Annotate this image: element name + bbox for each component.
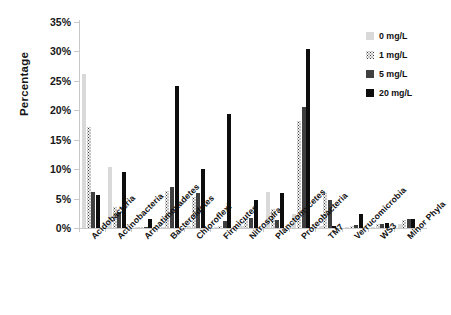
legend-item[interactable]: 1 mg/L: [366, 45, 448, 64]
y-axis-tick: [74, 140, 79, 141]
bar-group: [108, 22, 126, 228]
legend-label-5mgl: 5 mg/L: [379, 69, 407, 79]
bar[interactable]: [376, 224, 380, 228]
y-axis-tick: [74, 22, 79, 23]
legend-item[interactable]: 0 mg/L: [366, 26, 448, 45]
bar-chart: Percentage 0%5%10%15%20%25%30%35% Acidob…: [0, 0, 451, 315]
bar-group: [214, 22, 232, 228]
y-axis-tick-label: 30%: [31, 46, 71, 56]
legend: 0 mg/L 1 mg/L 5 mg/L 20 mg/L: [366, 26, 448, 102]
legend-label-1mgl: 1 mg/L: [379, 50, 407, 60]
bar[interactable]: [91, 192, 95, 228]
bar[interactable]: [82, 74, 86, 228]
y-axis-tick-label: 10%: [31, 164, 71, 174]
bar[interactable]: [407, 219, 411, 228]
x-axis-tick: [79, 228, 80, 232]
legend-swatch-5mgl: [366, 70, 374, 78]
y-axis-tick: [74, 81, 79, 82]
legend-swatch-20mgl: [366, 89, 374, 97]
y-axis-title: Percentage: [18, 29, 30, 139]
y-axis-tick: [74, 199, 79, 200]
bar[interactable]: [87, 127, 91, 228]
bar[interactable]: [402, 220, 406, 228]
bar[interactable]: [139, 227, 143, 228]
bar[interactable]: [218, 226, 222, 228]
bar-group: [82, 22, 100, 228]
y-axis-tick-label: 0%: [31, 223, 71, 233]
y-axis-tick: [74, 51, 79, 52]
legend-item[interactable]: 20 mg/L: [366, 83, 448, 102]
bar-group: [266, 22, 284, 228]
legend-label-0mgl: 0 mg/L: [379, 31, 407, 41]
y-axis-tick-label: 20%: [31, 105, 71, 115]
y-axis-tick-label: 5%: [31, 194, 71, 204]
y-axis-tick: [74, 169, 79, 170]
y-axis-tick-label: 15%: [31, 135, 71, 145]
legend-label-20mgl: 20 mg/L: [379, 88, 412, 98]
bar[interactable]: [350, 226, 354, 228]
y-axis-line: [79, 20, 80, 230]
legend-item[interactable]: 5 mg/L: [366, 64, 448, 83]
y-axis-tick-label: 25%: [31, 76, 71, 86]
y-axis-tick: [74, 110, 79, 111]
legend-swatch-0mgl: [366, 32, 374, 40]
bar-group: [240, 22, 258, 228]
legend-swatch-1mgl: [366, 51, 374, 59]
y-axis-tick-label: 35%: [31, 17, 71, 27]
